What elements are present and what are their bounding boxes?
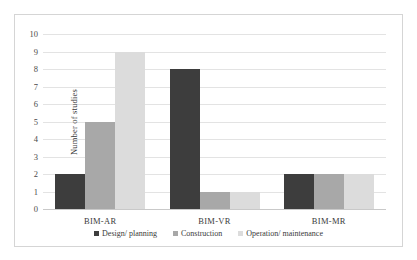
y-axis-tick-label: 9 — [34, 47, 38, 56]
legend-swatch-icon — [173, 231, 178, 236]
bar — [115, 52, 145, 210]
bar — [230, 192, 260, 210]
y-axis-tick-label: 10 — [30, 30, 39, 39]
y-axis-tick-label: 8 — [34, 65, 38, 74]
y-axis-title: Number of studies — [69, 88, 79, 154]
y-axis-tick-label: 7 — [34, 82, 38, 91]
legend-label: Construction — [181, 229, 222, 238]
y-axis-tick-label: 1 — [34, 187, 38, 196]
legend-swatch-icon — [94, 231, 99, 236]
gridline — [43, 87, 386, 88]
legend-label: Operation/ maintenance — [246, 229, 323, 238]
legend-item: Design/ planning — [94, 229, 157, 238]
y-axis-tick-label: 5 — [34, 117, 38, 126]
legend-item: Operation/ maintenance — [238, 229, 323, 238]
y-axis-tick-label: 2 — [34, 170, 38, 179]
bar — [170, 69, 200, 209]
bar — [85, 122, 115, 210]
gridline — [43, 104, 386, 105]
bar — [284, 174, 314, 209]
legend-swatch-icon — [238, 231, 243, 236]
y-axis-tick-label: 3 — [34, 152, 38, 161]
legend-label: Design/ planning — [102, 229, 157, 238]
bar — [200, 192, 230, 210]
gridline — [43, 34, 386, 35]
y-axis-tick-label: 4 — [34, 135, 38, 144]
gridline — [43, 52, 386, 53]
chart-legend: Design/ planningConstructionOperation/ m… — [15, 229, 402, 238]
bar — [314, 174, 344, 209]
y-axis-tick-label: 0 — [34, 205, 38, 214]
x-axis-category-label: BIM-VR — [198, 216, 231, 226]
bar — [55, 174, 85, 209]
plot-area: 012345678910 Number of studies BIM-ARBIM… — [43, 34, 386, 209]
chart-figure: 012345678910 Number of studies BIM-ARBIM… — [14, 14, 403, 247]
gridline — [43, 69, 386, 70]
gridline — [43, 209, 386, 210]
x-axis-category-label: BIM-MR — [312, 216, 346, 226]
bar — [344, 174, 374, 209]
y-axis-tick-label: 6 — [34, 100, 38, 109]
x-axis-category-label: BIM-AR — [84, 216, 117, 226]
legend-item: Construction — [173, 229, 222, 238]
